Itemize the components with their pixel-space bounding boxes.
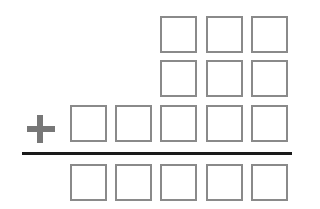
digit-box[interactable] — [206, 60, 243, 97]
digit-box[interactable] — [251, 105, 288, 142]
digit-box[interactable] — [160, 105, 197, 142]
digit-box[interactable] — [115, 105, 152, 142]
digit-box[interactable] — [70, 105, 107, 142]
digit-box[interactable] — [251, 16, 288, 53]
digit-box[interactable] — [160, 60, 197, 97]
answer-box[interactable] — [70, 164, 107, 201]
digit-box[interactable] — [206, 105, 243, 142]
answer-box[interactable] — [115, 164, 152, 201]
sum-line — [22, 152, 292, 155]
digit-box[interactable] — [251, 60, 288, 97]
plus-icon-horizontal — [27, 126, 55, 132]
digit-box[interactable] — [206, 16, 243, 53]
answer-box[interactable] — [251, 164, 288, 201]
answer-box[interactable] — [160, 164, 197, 201]
digit-box[interactable] — [160, 16, 197, 53]
answer-box[interactable] — [206, 164, 243, 201]
